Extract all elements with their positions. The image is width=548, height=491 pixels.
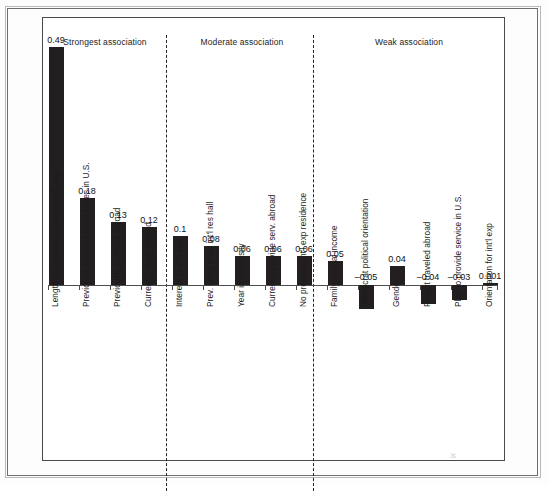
axis-tick — [265, 285, 266, 290]
category-label-8: No previous int'l exp residence — [298, 193, 308, 307]
category-label-10: Democrat political orientation — [360, 199, 370, 308]
axis-tick — [389, 285, 390, 290]
axis-tick — [48, 285, 49, 290]
section-header-weak: Weak association — [316, 37, 502, 47]
axis-tick — [482, 285, 483, 290]
category-label-5: Prev. living in an int'l res hall — [205, 202, 215, 307]
section-header-moderate: Moderate association — [168, 37, 316, 47]
category-label-11: Gender — [391, 279, 401, 307]
category-label-7: Currently provide serv. abroad — [267, 195, 277, 307]
bar-value-label-11: 0.04 — [374, 254, 420, 264]
category-label-3: Currently study abroad — [143, 222, 153, 307]
category-label-13: Plan to provide service in U.S. — [453, 194, 463, 307]
category-label-6: Year in university — [236, 243, 246, 307]
axis-tick — [296, 285, 297, 290]
axis-tick — [234, 285, 235, 290]
category-label-0: Length of previous & current int'l exp — [50, 171, 60, 307]
category-label-12: Parent traveled abroad — [422, 221, 432, 307]
category-label-4: Interest in int'l exp — [174, 239, 184, 307]
axis-tick — [141, 285, 142, 290]
bar-value-label-0: 0.49 — [33, 35, 79, 45]
scan-artifact: .ls — [449, 452, 456, 459]
category-label-14: Orientation for int'l exp — [484, 223, 494, 307]
axis-tick — [110, 285, 111, 290]
group-divider-2 — [313, 35, 314, 491]
category-label-1: Previously traveled to >5 states in U.S. — [81, 162, 91, 307]
axis-tick — [203, 285, 204, 290]
bar-value-label-4: 0.1 — [157, 224, 203, 234]
axis-tick — [497, 285, 498, 290]
axis-tick — [172, 285, 173, 290]
axis-tick — [327, 285, 328, 290]
axis-tick — [79, 285, 80, 290]
category-label-2: Previously traveled abroad — [112, 207, 122, 307]
category-label-9: Family annual income — [329, 225, 339, 307]
group-divider-1 — [166, 35, 167, 491]
